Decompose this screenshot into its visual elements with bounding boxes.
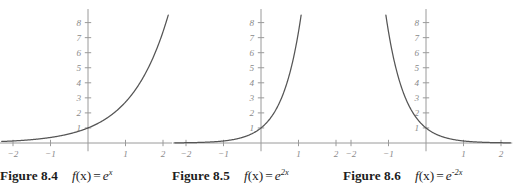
x-tick-label: 1 <box>296 149 301 159</box>
expr-exponent-8-5: 2x <box>281 168 289 177</box>
x-tick-label: 1 <box>461 149 466 159</box>
plot-8-4: −2−11212345678 <box>0 0 172 160</box>
expr-arg-8-4: (x) <box>76 168 92 183</box>
y-tick-label: 4 <box>249 78 254 88</box>
y-tick-label: 5 <box>414 63 419 73</box>
y-tick-label: 4 <box>414 78 419 88</box>
y-tick-label: 8 <box>249 18 254 28</box>
y-tick-label: 3 <box>75 93 81 103</box>
y-tick-label: 3 <box>413 93 419 103</box>
figure-label-8-4: Figure 8.4 <box>0 168 58 183</box>
x-tick-label: −1 <box>45 149 56 159</box>
y-tick-label: 6 <box>76 48 81 58</box>
y-tick-label: 5 <box>249 63 254 73</box>
y-tick-label: 6 <box>249 48 254 58</box>
curve-figure-8-6 <box>386 15 511 143</box>
expr-exponent-8-4: x <box>109 168 113 177</box>
expr-exponent-8-6: -2x <box>452 168 463 177</box>
y-tick-label: 6 <box>414 48 419 58</box>
figure-8-6: −2−11212345678 Figure 8.6f(x)=e-2x <box>343 0 514 193</box>
y-tick-label: 5 <box>76 63 81 73</box>
figure-expression-8-5: f(x)=e2x <box>244 168 289 183</box>
y-tick-label: 2 <box>76 108 81 118</box>
x-tick-label: −1 <box>383 149 394 159</box>
x-tick-label: −1 <box>218 149 229 159</box>
curve-figure-8-4 <box>2 15 169 141</box>
curve-figure-8-5 <box>175 15 301 143</box>
y-tick-label: 8 <box>76 18 81 28</box>
figure-8-5: −2−11212345678 Figure 8.5f(x)=e2x <box>172 0 343 193</box>
plot-8-5: −2−11212345678 <box>172 0 343 160</box>
y-tick-label: 4 <box>76 78 81 88</box>
figure-label-8-6: Figure 8.6 <box>343 168 401 183</box>
caption-8-6: Figure 8.6f(x)=e-2x <box>343 162 514 190</box>
figure-expression-8-6: f(x)=e-2x <box>415 168 463 183</box>
expr-eq-8-6: = <box>436 168 444 183</box>
x-tick-label: −2 <box>181 149 192 159</box>
expr-eq-8-5: = <box>265 168 273 183</box>
y-tick-label: 3 <box>248 93 254 103</box>
y-tick-label: 1 <box>414 123 419 133</box>
plot-8-6: −2−11212345678 <box>343 0 514 160</box>
x-tick-label: −2 <box>8 149 19 159</box>
x-tick-label: −2 <box>346 149 357 159</box>
y-tick-label: 1 <box>249 123 254 133</box>
x-tick-label: 2 <box>161 149 166 159</box>
axes-group: −2−11212345678 <box>343 9 512 159</box>
figure-row: −2−11212345678 Figure 8.4f(x)=ex −2−1121… <box>0 0 514 193</box>
caption-8-4: Figure 8.4f(x)=ex <box>0 162 172 190</box>
figure-8-4: −2−11212345678 Figure 8.4f(x)=ex <box>0 0 172 193</box>
axes-group: −2−11212345678 <box>173 9 343 159</box>
figure-label-8-5: Figure 8.5 <box>172 168 230 183</box>
expr-arg-8-5: (x) <box>248 168 264 183</box>
expr-arg-8-6: (x) <box>419 168 435 183</box>
x-tick-label: 2 <box>499 149 504 159</box>
y-tick-label: 7 <box>414 33 419 43</box>
y-tick-label: 7 <box>76 33 81 43</box>
axes-group: −2−11212345678 <box>0 9 172 159</box>
caption-8-5: Figure 8.5f(x)=e2x <box>172 162 343 190</box>
x-tick-label: 1 <box>123 149 128 159</box>
y-tick-label: 2 <box>249 108 254 118</box>
y-tick-label: 7 <box>249 33 254 43</box>
x-tick-label: 2 <box>334 149 339 159</box>
y-tick-label: 8 <box>414 18 419 28</box>
expr-eq-8-4: = <box>93 168 101 183</box>
figure-expression-8-4: f(x)=ex <box>72 168 113 183</box>
